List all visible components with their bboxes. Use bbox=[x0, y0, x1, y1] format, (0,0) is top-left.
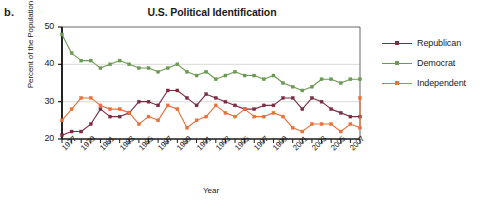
legend-marker-icon bbox=[395, 61, 399, 65]
legend-item-independent[interactable]: Independent bbox=[382, 78, 466, 88]
y-tick-label: 30 bbox=[32, 96, 54, 106]
legend-swatch-icon bbox=[382, 39, 412, 47]
y-tick-label: 50 bbox=[32, 21, 54, 31]
legend-swatch-icon bbox=[382, 59, 412, 67]
axis-frame bbox=[62, 27, 360, 139]
figure-panel: b. U.S. Political Identification Percent… bbox=[0, 0, 491, 208]
legend-label: Independent bbox=[417, 78, 466, 88]
plot-area: Percent of the Population Year 20304050 … bbox=[0, 0, 491, 208]
legend-swatch-icon bbox=[382, 79, 412, 87]
legend-marker-icon bbox=[395, 41, 399, 45]
line-chart-svg bbox=[0, 0, 491, 208]
legend-label: Democrat bbox=[417, 58, 455, 68]
y-tick-label: 40 bbox=[32, 58, 54, 68]
y-axis-label: Percent of the Population bbox=[26, 0, 35, 105]
legend-label: Republican bbox=[417, 38, 461, 48]
x-axis-label: Year bbox=[62, 186, 360, 195]
legend-item-democrat[interactable]: Democrat bbox=[382, 58, 466, 68]
legend-marker-icon bbox=[395, 81, 399, 85]
chart-legend: RepublicanDemocratIndependent bbox=[382, 38, 466, 88]
data-series-group bbox=[61, 33, 362, 137]
legend-item-republican[interactable]: Republican bbox=[382, 38, 466, 48]
y-tick-label: 20 bbox=[32, 133, 54, 143]
